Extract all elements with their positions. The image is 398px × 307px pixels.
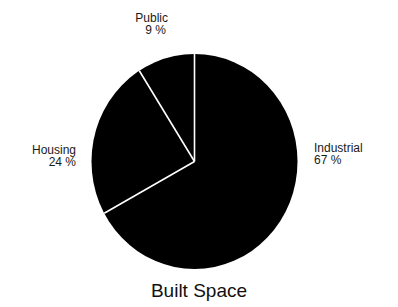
label-public-pct: 9 % xyxy=(118,24,168,36)
label-industrial-pct: 67 % xyxy=(314,154,384,166)
label-housing-pct: 24 % xyxy=(20,156,76,168)
label-industrial: Industrial 67 % xyxy=(314,142,384,166)
chart-title: Built Space xyxy=(0,280,398,302)
label-public: Public 9 % xyxy=(118,12,168,36)
label-housing: Housing 24 % xyxy=(20,144,76,168)
